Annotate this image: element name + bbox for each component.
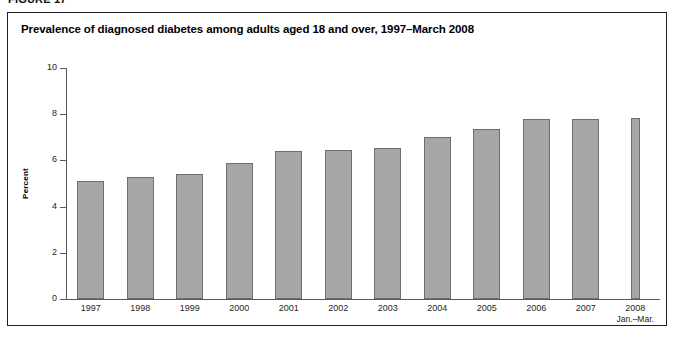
x-axis-label-year: 1999 (180, 303, 200, 313)
y-axis-tick-label: 0 (52, 293, 57, 303)
y-axis-tick-label: 10 (47, 62, 57, 72)
y-axis-tick-label: 4 (52, 201, 57, 211)
bar-2005 (473, 129, 500, 299)
x-axis-label-year: 1997 (81, 303, 101, 313)
figure-frame: Prevalence of diagnosed diabetes among a… (7, 12, 667, 326)
x-axis-label-year: 2002 (328, 303, 348, 313)
bar-2006 (523, 119, 550, 299)
bar-2004 (424, 137, 451, 299)
bar-2001 (275, 151, 302, 299)
x-axis-label-year: 2000 (229, 303, 249, 313)
bar-2007 (572, 119, 599, 299)
x-axis-label-year: 2008 (625, 303, 645, 313)
y-axis-tick-label: 8 (52, 108, 57, 118)
x-axis-label-year: 2007 (576, 303, 596, 313)
bar-series (66, 68, 660, 299)
plot-area: Percent 0246810 199719981999200020012002… (8, 13, 668, 327)
x-axis-label-year: 1998 (130, 303, 150, 313)
bar-1999 (176, 174, 203, 299)
y-axis-tick-label: 6 (52, 154, 57, 164)
bar-1997 (77, 181, 104, 299)
x-axis-label-year: 2005 (477, 303, 497, 313)
y-axis-tick-label: 2 (52, 247, 57, 257)
x-axis-labels: 1997199819992000200120022003200420052006… (66, 303, 660, 327)
y-axis-tick: 0 (60, 299, 66, 300)
figure-container: FIGURE 17 Prevalence of diagnosed diabet… (0, 0, 682, 337)
figure-number-label: FIGURE 17 (8, 0, 67, 5)
x-axis-line (66, 299, 660, 300)
x-axis-label-year: 2001 (279, 303, 299, 313)
x-axis-label-year: 2004 (427, 303, 447, 313)
x-axis-label-sublabel: Jan.–Mar. (605, 314, 665, 325)
bar-2003 (374, 148, 401, 299)
bar-2000 (226, 163, 253, 299)
x-axis-label-year: 2006 (526, 303, 546, 313)
y-axis-title: Percent (21, 154, 30, 214)
x-axis-label: 2008Jan.–Mar. (605, 303, 665, 325)
x-axis-label-year: 2003 (378, 303, 398, 313)
bar-2008 (631, 118, 640, 299)
bar-2002 (325, 150, 352, 299)
bar-1998 (127, 177, 154, 299)
